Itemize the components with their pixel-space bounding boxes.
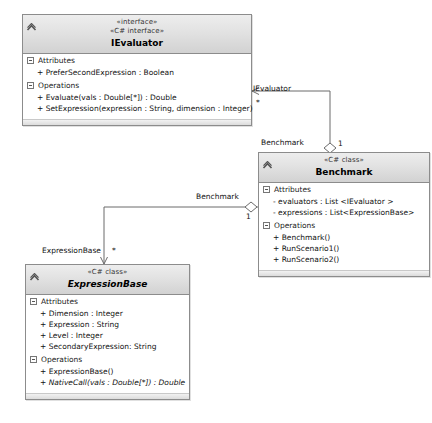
list-item: + ExpressionBase() <box>40 366 186 377</box>
section-title-attributes[interactable]: Attributes <box>26 295 189 308</box>
role-label-benchmark-top: Benchmark <box>261 138 304 147</box>
section-label: Attributes <box>274 184 311 195</box>
multiplicity-benchmark-left: 1 <box>246 212 251 221</box>
class-name-ievaluator: IEvaluator <box>27 36 247 49</box>
role-label-expressionbase: ExpressionBase <box>42 246 101 255</box>
class-header-benchmark: «C# class» Benchmark <box>259 153 429 183</box>
list-item: - evaluators : List <IEvaluator > <box>273 196 426 207</box>
multiplicity-ievaluator: * <box>256 98 260 107</box>
uml-class-benchmark[interactable]: «C# class» Benchmark Attributes - evalua… <box>258 152 430 277</box>
attribute-list-expressionbase: + Dimension : Integer + Expression : Str… <box>26 308 189 353</box>
section-title-operations[interactable]: Operations <box>259 219 429 232</box>
list-item: + Dimension : Integer <box>40 308 186 319</box>
minus-box-icon[interactable] <box>263 186 270 193</box>
section-title-operations[interactable]: Operations <box>23 79 251 92</box>
class-name-benchmark: Benchmark <box>263 165 425 178</box>
section-title-attributes[interactable]: Attributes <box>259 183 429 196</box>
class-footer-strip <box>26 393 189 399</box>
minus-box-icon[interactable] <box>263 222 270 229</box>
role-label-ievaluator: IEvaluator <box>253 84 291 93</box>
section-label: Attributes <box>38 55 75 66</box>
class-stereotype-language: «C# class» <box>263 156 425 165</box>
chevron-up-icon[interactable] <box>29 268 40 278</box>
section-title-attributes[interactable]: Attributes <box>23 54 251 67</box>
class-name-expressionbase: ExpressionBase <box>30 277 185 290</box>
list-item: - expressions : List<ExpressionBase> <box>273 207 426 218</box>
diagram-canvas: IEvaluator * Benchmark 1 Benchmark 1 Exp… <box>0 0 432 423</box>
class-footer-strip <box>23 119 251 125</box>
section-label: Attributes <box>41 296 78 307</box>
class-header-expressionbase: «C# class» ExpressionBase <box>26 265 189 295</box>
list-item: + Benchmark() <box>273 232 426 243</box>
uml-class-ievaluator[interactable]: «interface» «C# interface» IEvaluator At… <box>22 14 252 126</box>
multiplicity-benchmark-top: 1 <box>338 139 343 148</box>
list-item: + SecondaryExpression: String <box>40 341 186 352</box>
section-label: Operations <box>41 354 82 365</box>
section-label: Operations <box>274 220 315 231</box>
operation-list-benchmark: + Benchmark() + RunScenario1() + RunScen… <box>259 232 429 266</box>
list-item: + RunScenario2() <box>273 254 426 265</box>
chevron-up-icon[interactable] <box>262 156 273 166</box>
section-title-operations[interactable]: Operations <box>26 353 189 366</box>
list-item: + RunScenario1() <box>273 243 426 254</box>
class-stereotype-language: «C# class» <box>30 268 185 277</box>
attribute-list-benchmark: - evaluators : List <IEvaluator > - expr… <box>259 196 429 219</box>
class-footer-strip <box>259 270 429 276</box>
edge-benchmark-expressionbase <box>104 202 258 264</box>
class-header-ievaluator: «interface» «C# interface» IEvaluator <box>23 15 251 54</box>
minus-box-icon[interactable] <box>30 298 37 305</box>
aggregation-diamond-expressionbase <box>245 202 257 212</box>
list-item: + Expression : String <box>40 319 186 330</box>
list-item: + SetExpression(expression : String, dim… <box>37 103 248 114</box>
class-stereotype-interface: «interface» <box>27 18 247 27</box>
chevron-up-icon[interactable] <box>26 18 37 28</box>
list-item: + Evaluate(vals : Double[*]) : Double <box>37 92 248 103</box>
class-stereotype-language: «C# interface» <box>27 27 247 36</box>
role-label-benchmark-left: Benchmark <box>196 192 239 201</box>
operation-list-expressionbase: + ExpressionBase() + NativeCall(vals : D… <box>26 366 189 389</box>
operation-list-ievaluator: + Evaluate(vals : Double[*]) : Double + … <box>23 92 251 115</box>
minus-box-icon[interactable] <box>27 82 34 89</box>
attribute-list-ievaluator: + PreferSecondExpression : Boolean <box>23 67 251 79</box>
section-label: Operations <box>38 80 79 91</box>
multiplicity-expressionbase: * <box>112 246 116 255</box>
minus-box-icon[interactable] <box>27 57 34 64</box>
minus-box-icon[interactable] <box>30 356 37 363</box>
uml-class-expressionbase[interactable]: «C# class» ExpressionBase Attributes + D… <box>25 264 190 400</box>
list-item: + Level : Integer <box>40 330 186 341</box>
list-item: + PreferSecondExpression : Boolean <box>37 67 248 78</box>
list-item: + NativeCall(vals : Double[*]) : Double <box>40 377 186 388</box>
